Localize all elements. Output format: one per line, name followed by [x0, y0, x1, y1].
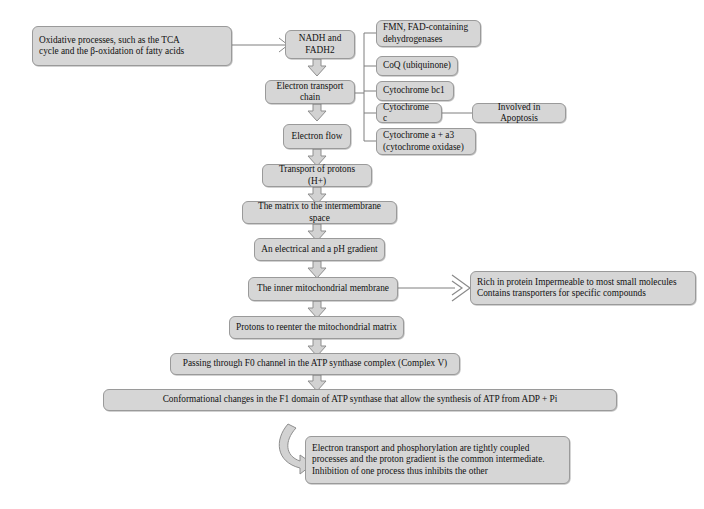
bracket-etc-components: [355, 33, 376, 141]
node-etc-component-cytochrome-a-a3: Cytochrome a + a3 (cytochrome oxidase): [376, 128, 476, 155]
node-etc-component-coq: CoQ (ubiquinone): [376, 56, 458, 76]
node-electron-transport-chain: Electron transport chain: [265, 80, 355, 104]
node-etc-component-cytochrome-bc1: Cytochrome bc1: [376, 81, 454, 101]
node-electron-flow: Electron flow: [283, 124, 351, 149]
node-involved-in-apoptosis: Involved in Apoptosis: [472, 103, 566, 123]
node-matrix-to-intermembrane: The matrix to the intermembrane space: [242, 201, 397, 224]
node-transport-of-protons: Transport of protons (H+): [262, 164, 372, 187]
node-membrane-properties: Rich in protein Impermeable to most smal…: [470, 271, 696, 305]
arrow-etc-to-electron-flow: [308, 104, 326, 121]
node-protons-reenter: Protons to reenter the mitochondrial mat…: [229, 316, 404, 339]
flowchart-canvas: Oxidative processes, such as the TCA cyc…: [0, 0, 704, 509]
node-etc-component-fmn-fad: FMN, FAD-containing dehydrogenases: [376, 20, 481, 47]
arrow-oxidative-to-nadh: [232, 38, 288, 52]
node-coupling-note: Electron transport and phosphorylation a…: [305, 436, 570, 484]
node-passing-f0-channel: Passing through F0 channel in the ATP sy…: [170, 353, 460, 375]
arrow-nadh-to-etc: [308, 59, 326, 76]
node-conformational-changes: Conformational changes in the F1 domain …: [103, 389, 617, 411]
node-electrical-ph-gradient: An electrical and a pH gradient: [254, 238, 385, 261]
node-oxidative-processes: Oxidative processes, such as the TCA cyc…: [32, 26, 232, 66]
node-etc-component-cytochrome-c: Cytochrome c: [376, 103, 442, 123]
arrow-gradient-to-membrane: [308, 261, 326, 278]
node-inner-mitochondrial-membrane: The inner mitochondrial membrane: [248, 277, 398, 301]
arrow-membrane-to-properties: [398, 275, 470, 301]
node-nadh-fadh2: NADH and FADH2: [285, 30, 355, 59]
